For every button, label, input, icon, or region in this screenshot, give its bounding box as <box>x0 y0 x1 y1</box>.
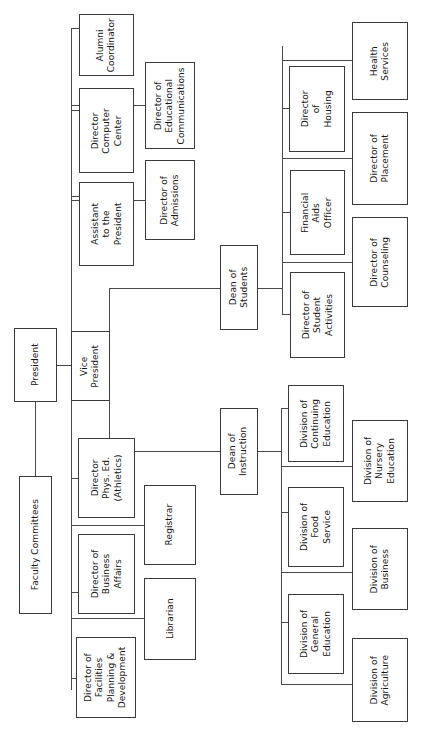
node-director-student-activities[interactable]: Director of Student Activities <box>290 272 345 358</box>
node-registrar[interactable]: Registrar <box>144 485 196 565</box>
node-director-admissions-label: Director of Admissions <box>159 174 182 226</box>
node-dean-of-students-label: Dean of Students <box>228 267 251 308</box>
edge-deaninstruction-bus <box>258 451 281 452</box>
node-division-general-education-label: Division of General Education <box>299 610 333 658</box>
node-division-general-education[interactable]: Division of General Education <box>288 594 344 674</box>
edge-deanstudents-bus <box>258 288 282 289</box>
node-financial-aids-officer[interactable]: Financial Aids Officer <box>290 170 345 255</box>
node-director-student-activities-label: Director of Student Activities <box>301 291 335 340</box>
node-division-continuing-education-label: Division of Continuing Education <box>299 399 333 449</box>
node-division-food-service-label: Division of Food Service <box>299 503 333 551</box>
node-dean-of-instruction-label: Dean of Instruction <box>228 427 251 476</box>
vp-spine-lower <box>71 400 72 690</box>
node-alumni-coordinator-label: Alumni Coordinator <box>95 18 118 72</box>
node-director-facilities[interactable]: Director of Facilities Planning & Develo… <box>76 637 136 718</box>
node-director-of-placement[interactable]: Director of Placement <box>352 112 408 205</box>
node-director-phys-ed[interactable]: Director Phys. Ed. (Athletics) <box>78 438 135 518</box>
edge-counseling <box>282 262 353 263</box>
node-director-of-counseling[interactable]: Director of Counseling <box>352 217 408 307</box>
node-director-computer-center[interactable]: Director Computer Center <box>79 88 134 173</box>
vp-spine-upper <box>71 28 72 331</box>
node-director-of-placement-label: Director of Placement <box>369 134 392 183</box>
node-division-nursery-education-label: Division of Nursery Education <box>363 437 397 485</box>
node-division-food-service[interactable]: Division of Food Service <box>288 487 344 567</box>
node-director-computer-center-label: Director Computer Center <box>90 108 124 154</box>
node-division-agriculture[interactable]: Division of Agriculture <box>352 638 408 722</box>
node-director-educational-communications-label: Director of Educational Communications <box>153 67 187 144</box>
org-chart: President Faculty Committees Vice Presid… <box>0 0 421 741</box>
edge-president-faculty <box>35 402 36 476</box>
node-director-phys-ed-label: Director Phys. Ed. (Athletics) <box>90 454 124 501</box>
node-faculty-committees-label: Faculty Committees <box>30 499 41 590</box>
node-librarian-label: Librarian <box>164 599 175 640</box>
node-president-label: President <box>30 344 41 387</box>
node-director-of-counseling-label: Director of Counseling <box>369 237 392 288</box>
deanstudents-spine <box>282 46 283 314</box>
edge-nursery-education <box>281 466 352 467</box>
edge-placement <box>282 158 353 159</box>
node-registrar-label: Registrar <box>164 504 175 546</box>
node-health-services-label: Health Services <box>369 42 392 81</box>
node-financial-aids-officer-label: Financial Aids Officer <box>301 192 335 232</box>
node-dean-of-instruction[interactable]: Dean of Instruction <box>220 408 258 495</box>
node-librarian[interactable]: Librarian <box>144 578 196 660</box>
stub-student-activities <box>282 314 290 315</box>
node-director-of-housing[interactable]: Director of Housing <box>289 66 345 152</box>
edge-division-agriculture <box>281 684 352 685</box>
node-vice-president-label: Vice President <box>79 345 102 388</box>
node-division-business-label: Division of Business <box>369 545 392 593</box>
node-president[interactable]: President <box>14 328 57 402</box>
node-alumni-coordinator[interactable]: Alumni Coordinator <box>79 14 134 76</box>
node-assistant-to-president[interactable]: Assistant to the President <box>79 182 134 266</box>
node-division-nursery-education[interactable]: Division of Nursery Education <box>352 420 408 502</box>
node-director-facilities-label: Director of Facilities Planning & Develo… <box>84 647 129 709</box>
node-director-educational-communications[interactable]: Director of Educational Communications <box>145 62 195 149</box>
edge-vp-dean-students <box>109 288 221 289</box>
node-dean-of-students[interactable]: Dean of Students <box>220 245 258 330</box>
edge-librarian <box>71 618 145 619</box>
node-division-business[interactable]: Division of Business <box>352 528 408 610</box>
node-vice-president[interactable]: Vice President <box>71 331 110 401</box>
edge-health-services <box>282 60 353 61</box>
node-director-business-affairs[interactable]: Director of Business Affairs <box>78 534 135 614</box>
edge-division-business <box>281 572 352 573</box>
deaninstruction-spine <box>281 408 282 684</box>
node-division-agriculture-label: Division of Agriculture <box>369 655 392 706</box>
stub-financial-aids <box>282 212 290 213</box>
edge-registrar <box>71 525 145 526</box>
edge-president-vicepresident <box>57 365 71 366</box>
node-director-admissions[interactable]: Director of Admissions <box>145 160 195 240</box>
node-director-of-housing-label: Director of Housing <box>300 90 334 127</box>
node-director-business-affairs-label: Director of Business Affairs <box>90 550 124 599</box>
node-health-services[interactable]: Health Services <box>352 22 408 100</box>
node-faculty-committees[interactable]: Faculty Committees <box>19 476 52 614</box>
node-division-continuing-education[interactable]: Division of Continuing Education <box>288 385 344 462</box>
node-assistant-to-president-label: Assistant to the President <box>90 203 124 246</box>
